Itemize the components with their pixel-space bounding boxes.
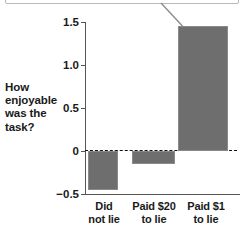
- callout-box: [5, 0, 239, 4]
- y-axis-label-line-1: How: [5, 81, 77, 94]
- x-category-line-2: to lie: [127, 213, 181, 226]
- bar-paid-20-to-lie: [132, 151, 175, 164]
- y-tick-mark: [81, 108, 85, 109]
- x-category-line-1: Did: [83, 200, 125, 213]
- x-category-label-paid-20-to-lie: Paid $20 to lie: [127, 200, 181, 225]
- x-category-label-paid-1-to-lie: Paid $1 to lie: [181, 200, 231, 225]
- x-category-line-1: Paid $1: [181, 200, 231, 213]
- bar-did-not-lie: [88, 151, 118, 190]
- x-category-line-1: Paid $20: [127, 200, 181, 213]
- y-tick-mark: [81, 22, 85, 23]
- y-tick-label: 0.5: [63, 102, 79, 114]
- y-tick-label: −0.5: [56, 188, 79, 200]
- x-category-line-2: to lie: [181, 213, 231, 226]
- y-axis-label-line-4: task?: [5, 121, 77, 134]
- y-tick-label: 1.5: [63, 16, 79, 28]
- y-tick-label: 0: [73, 145, 79, 157]
- chart-figure: How enjoyable was the task? 1.5 1.0 0.5 …: [0, 0, 244, 237]
- x-category-label-did-not-lie: Did not lie: [83, 200, 125, 225]
- plot-area: 1.5 1.0 0.5 0 −0.5 Did not lie: [85, 22, 237, 194]
- y-tick-mark: [81, 151, 85, 152]
- x-axis-line: [85, 194, 240, 195]
- y-tick-mark: [81, 65, 85, 66]
- y-tick-label: 1.0: [63, 59, 79, 71]
- y-tick-mark: [81, 194, 85, 195]
- bar-paid-1-to-lie: [178, 26, 228, 151]
- x-category-line-2: not lie: [83, 213, 125, 226]
- y-axis-line: [85, 22, 86, 195]
